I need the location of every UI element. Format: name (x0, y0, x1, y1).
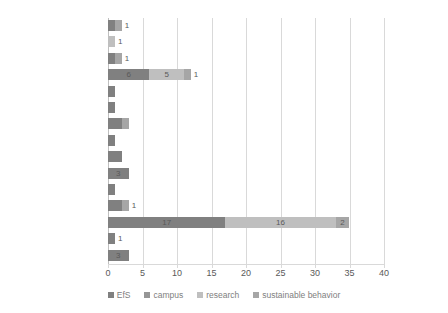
bar-segment-efs (108, 118, 122, 129)
chart-row: Venezuela1 (108, 18, 384, 33)
bar-segment-efs (108, 102, 115, 113)
stacked-bar (108, 135, 115, 146)
legend-label: sustainable behavior (262, 290, 340, 300)
bar-value-label: 17 (162, 218, 171, 227)
bar-segment-efs (108, 151, 122, 162)
legend-label: campus (153, 290, 183, 300)
chart-row: Costa Rica3 (108, 166, 384, 181)
chart-row: Uruguay1 (108, 34, 384, 49)
bar-segment-efs (108, 184, 115, 195)
gridline (384, 18, 385, 264)
chart-row: Brazil17162 (108, 215, 384, 230)
x-tick-label: 20 (241, 268, 251, 278)
bar-segment-efs (108, 200, 122, 211)
bar-value-label: 1 (194, 70, 198, 79)
stacked-bar: 3 (108, 168, 129, 179)
bar-segment-efs: 3 (108, 250, 129, 261)
bar-segment-research: 1 (108, 36, 115, 47)
bar-value-label: 3 (116, 169, 120, 178)
bar-value-label: 1 (118, 37, 122, 46)
stacked-bar: 651 (108, 69, 191, 80)
stacked-bar: 1 (108, 233, 115, 244)
legend-item[interactable]: research (197, 290, 239, 300)
chart-row: Chile1 (108, 198, 384, 213)
bar-segment-efs: 6 (108, 69, 149, 80)
chart-row: Paraguay1 (108, 51, 384, 66)
bar-segment-efs (108, 135, 115, 146)
x-tick-label: 30 (310, 268, 320, 278)
chart-row: Colombia (108, 182, 384, 197)
bar-value-label: 1 (118, 234, 122, 243)
stacked-bar (108, 151, 122, 162)
stacked-bar (108, 102, 115, 113)
bar-segment-sustainable-behavior: 1 (122, 200, 129, 211)
bar-value-label: 1 (125, 21, 129, 30)
stacked-bar: 1 (108, 36, 115, 47)
legend-swatch-icon (253, 292, 259, 298)
bar-segment-efs (108, 53, 115, 64)
chart-row: Argentina3 (108, 248, 384, 263)
chart-row: Bolivia1 (108, 231, 384, 246)
bar-segment-sustainable-behavior (122, 118, 129, 129)
legend-swatch-icon (144, 292, 150, 298)
chart-row: Guatemala (108, 100, 384, 115)
plot-area: Venezuela1Uruguay1Paraguay1Mexico651Hond… (108, 18, 384, 264)
legend-swatch-icon (108, 292, 114, 298)
legend-item[interactable]: campus (144, 290, 183, 300)
legend-label: EfS (117, 290, 131, 300)
bar-segment-efs (108, 20, 115, 31)
chart-row: Dominican Republic (108, 133, 384, 148)
bar-segment-efs: 3 (108, 168, 129, 179)
legend-item[interactable]: EfS (108, 290, 131, 300)
stacked-bar (108, 118, 129, 129)
x-tick-label: 35 (344, 268, 354, 278)
bar-segment-research: 5 (149, 69, 184, 80)
legend-label: research (206, 290, 239, 300)
bar-value-label: 1 (132, 201, 136, 210)
bar-value-label: 6 (126, 70, 130, 79)
stacked-bar-chart: Venezuela1Uruguay1Paraguay1Mexico651Hond… (0, 0, 448, 313)
chart-row: Cuba (108, 149, 384, 164)
x-tick-label: 25 (275, 268, 285, 278)
x-tick-label: 0 (105, 268, 110, 278)
bar-value-label: 1 (125, 54, 129, 63)
bar-value-label: 16 (276, 218, 285, 227)
legend-item[interactable]: sustainable behavior (253, 290, 340, 300)
x-tick-label: 15 (206, 268, 216, 278)
chart-row: Honduras (108, 84, 384, 99)
bar-segment-efs: 17 (108, 217, 225, 228)
chart-legend: EfScampusresearchsustainable behavior (0, 290, 448, 300)
stacked-bar: 1 (108, 200, 129, 211)
stacked-bar (108, 86, 115, 97)
bar-segment-research: 16 (225, 217, 335, 228)
chart-row: Mexico651 (108, 67, 384, 82)
bar-value-label: 5 (164, 70, 168, 79)
bar-segment-efs: 1 (108, 233, 115, 244)
bar-segment-sustainable-behavior: 1 (115, 20, 122, 31)
bar-value-label: 2 (340, 218, 344, 227)
x-tick-label: 5 (140, 268, 145, 278)
x-tick-label: 10 (172, 268, 182, 278)
x-tick-label: 40 (379, 268, 389, 278)
bar-segment-sustainable-behavior: 1 (115, 53, 122, 64)
bar-segment-efs (108, 86, 115, 97)
stacked-bar: 17162 (108, 217, 349, 228)
chart-row: El Salvador (108, 116, 384, 131)
stacked-bar: 3 (108, 250, 129, 261)
stacked-bar (108, 184, 115, 195)
bar-value-label: 3 (116, 251, 120, 260)
stacked-bar: 1 (108, 53, 122, 64)
bar-segment-sustainable-behavior: 1 (184, 69, 191, 80)
bar-segment-sustainable-behavior: 2 (336, 217, 350, 228)
legend-swatch-icon (197, 292, 203, 298)
stacked-bar: 1 (108, 20, 122, 31)
